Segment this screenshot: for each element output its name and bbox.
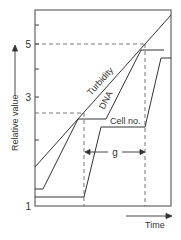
tick-label-5: 5	[25, 39, 31, 50]
tick-label-3: 3	[25, 92, 31, 103]
time-arrow	[126, 214, 172, 219]
y-ticks	[35, 25, 39, 140]
generation-label: g	[112, 147, 118, 158]
cell-no-label: Cell no.	[110, 116, 141, 126]
chart: 5 3 1 Turbidity DNA Cell no. g Time Rela…	[0, 0, 181, 240]
y-axis-label: Relative value	[10, 94, 20, 151]
turbidity-line	[35, 15, 171, 167]
x-axis-label: Time	[145, 220, 165, 230]
y-axis-arrow	[13, 45, 18, 96]
dna-line	[35, 50, 164, 189]
tick-label-1: 1	[25, 201, 31, 212]
